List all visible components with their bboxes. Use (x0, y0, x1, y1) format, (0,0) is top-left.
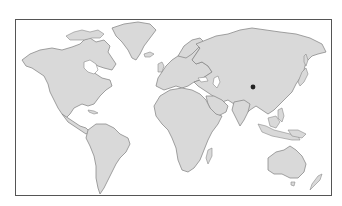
arctic-archipelago (66, 30, 104, 40)
caribbean-islands (88, 110, 98, 114)
australia (268, 146, 306, 178)
indian-subcontinent (232, 100, 250, 126)
central-america (62, 114, 90, 134)
tasmania (291, 182, 295, 186)
madagascar (206, 148, 212, 164)
south-america (86, 124, 130, 194)
new-zealand (310, 174, 322, 190)
iceland (144, 52, 154, 57)
map-figure (0, 0, 342, 206)
location-marker (251, 85, 256, 90)
world-map (0, 0, 342, 206)
north-america (22, 38, 116, 118)
